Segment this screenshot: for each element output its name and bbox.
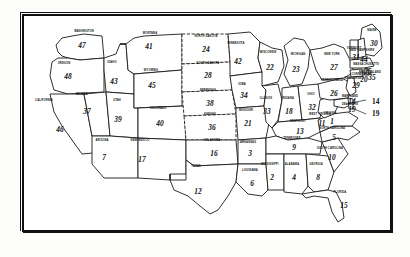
- state-name-indiana: INDIANA: [282, 96, 294, 100]
- state-name-california: CALIFORNIA: [35, 98, 53, 102]
- state-number-pennsylvania: 26: [329, 89, 338, 98]
- state-number-new-hampshire: 44: [359, 55, 368, 64]
- state-number-connecticut: 20: [359, 75, 368, 84]
- state-shape-wyoming[interactable]: [134, 70, 182, 108]
- state-name-pennsylvania: PENNSYLVANIA: [321, 78, 343, 82]
- state-name-south-carolina: SOUTH CAROLINA: [317, 146, 343, 150]
- state-number-texas: 12: [194, 187, 202, 196]
- state-name-texas: TEXAS: [191, 164, 201, 168]
- state-name-north-dakota: NORTH DAKOTA: [194, 34, 217, 38]
- state-name-oklahoma: OKLAHOMA: [204, 138, 221, 142]
- state-shape-florida[interactable]: [302, 190, 344, 222]
- state-name-new-york: NEW YORK: [324, 52, 340, 56]
- state-name-arizona: ARIZONA: [95, 138, 108, 142]
- state-name-nebraska: NEBRASKA: [200, 88, 216, 92]
- state-number-mississippi: 2: [269, 173, 274, 182]
- state-name-mississippi: MISSISSIPPI: [261, 162, 278, 166]
- state-name-washington: WASHINGTON: [74, 29, 94, 33]
- state-name-alabama: ALABAMA: [285, 162, 299, 166]
- state-name-nevada: NEVADA: [76, 92, 88, 96]
- us-states-svg: WASHINGTONOREGONCALIFORNIAIDAHONEVADAUTA…: [22, 14, 388, 228]
- state-name-maine: MAINE: [367, 28, 376, 32]
- state-number-michigan: 23: [291, 65, 300, 74]
- state-name-utah: UTAH: [113, 98, 121, 102]
- state-name-illinois: ILLINOIS: [260, 96, 272, 100]
- state-name-oregon: OREGON: [58, 61, 71, 65]
- state-number-california: 46: [55, 125, 64, 134]
- state-number-north-carolina: 5: [332, 133, 336, 142]
- state-name-kentucky: KENTUCKY: [290, 119, 306, 123]
- state-shape-mississippi[interactable]: [266, 154, 284, 190]
- state-number-illinois: 33: [262, 107, 271, 116]
- state-name-louisiana: LOUISIANA: [242, 168, 258, 172]
- state-name-south-dakota: SOUTH DAKOTA: [197, 61, 220, 65]
- state-number-minnesota: 42: [233, 57, 242, 66]
- state-number-colorado: 40: [155, 119, 164, 128]
- figure-us-numbered-state-map: WASHINGTONOREGONCALIFORNIAIDAHONEVADAUTA…: [0, 0, 410, 257]
- state-number-montana: 41: [144, 42, 152, 51]
- state-number-maine: 30: [369, 39, 378, 48]
- state-number-west-virginia: 11: [319, 119, 326, 128]
- state-name-missouri: MISSOURI: [239, 108, 253, 112]
- state-name-colorado: COLORADO: [150, 106, 167, 110]
- state-number-virginia: 1: [330, 117, 334, 126]
- state-number-oklahoma: 16: [210, 149, 218, 158]
- state-number-kentucky: 13: [296, 127, 304, 136]
- state-number-south-dakota: 28: [203, 71, 212, 80]
- state-number-washington: 47: [77, 41, 86, 50]
- state-number-utah: 39: [113, 115, 122, 124]
- state-number-new-york: 27: [329, 63, 338, 72]
- state-number-tennessee: 9: [292, 143, 296, 152]
- state-name-wyoming: WYOMING: [144, 68, 158, 72]
- state-name-minnesota: MINNESOTA: [227, 41, 244, 45]
- state-shape-iowa[interactable]: [230, 72, 266, 108]
- state-number-alabama: 4: [291, 173, 296, 182]
- callout-number-14: 14: [372, 97, 380, 106]
- state-number-georgia: 8: [316, 173, 320, 182]
- state-name-florida: FLORIDA: [334, 190, 347, 194]
- state-number-arizona: 7: [102, 153, 106, 162]
- map-canvas: WASHINGTONOREGONCALIFORNIAIDAHONEVADAUTA…: [22, 14, 388, 228]
- state-number-indiana: 18: [285, 107, 293, 116]
- state-number-arkansas: 3: [247, 149, 252, 158]
- state-name-kansas: KANSAS: [204, 112, 216, 116]
- state-number-south-carolina: 10: [328, 153, 336, 162]
- state-name-georgia: GEORGIA: [309, 162, 323, 166]
- state-name-vermont: VERMONT: [347, 46, 362, 50]
- state-number-nebraska: 38: [205, 99, 214, 108]
- state-name-michigan: MICHIGAN: [291, 52, 306, 56]
- state-name-wisconsin: WISCONSIN: [260, 50, 277, 54]
- state-number-wisconsin: 22: [265, 63, 274, 72]
- state-number-florida: 15: [340, 201, 348, 210]
- callout-number-19: 19: [372, 109, 380, 118]
- state-number-wyoming: 45: [147, 81, 156, 90]
- state-number-rhode-island: 35: [367, 73, 376, 82]
- state-shape-alabama[interactable]: [284, 154, 308, 194]
- state-shape-utah[interactable]: [106, 92, 138, 138]
- state-shape-minnesota[interactable]: [228, 32, 262, 76]
- state-name-ohio: OHIO: [307, 92, 314, 96]
- state-name-montana: MONTANA: [143, 31, 157, 35]
- state-name-tennessee: TENNESSEE: [283, 136, 300, 140]
- state-shape-michigan[interactable]: [284, 38, 310, 86]
- state-number-north-dakota: 24: [201, 45, 210, 54]
- state-number-ohio: 32: [307, 103, 316, 112]
- state-number-new-jersey: 29: [351, 81, 360, 90]
- state-name-arkansas: ARKANSAS: [240, 140, 256, 144]
- callout-number-labels: 1419: [372, 97, 380, 118]
- state-number-idaho: 43: [109, 77, 118, 86]
- state-name-idaho: IDAHO: [107, 60, 116, 64]
- state-number-louisiana: 6: [250, 179, 254, 188]
- state-number-missouri: 21: [243, 119, 251, 128]
- state-name-new-mexico: NEW MEXICO: [131, 138, 150, 142]
- state-number-delaware: 19: [348, 105, 356, 114]
- state-number-vermont: 31: [351, 53, 359, 62]
- state-shape-arizona[interactable]: [92, 136, 138, 178]
- state-number-iowa: 34: [239, 91, 248, 100]
- state-number-new-mexico: 17: [138, 155, 146, 164]
- state-number-nevada: 37: [82, 107, 91, 116]
- state-number-oregon: 48: [63, 72, 72, 81]
- state-number-kansas: 36: [207, 123, 216, 132]
- state-name-virginia: VIRGINIA: [324, 111, 337, 115]
- state-name-iowa: IOWA: [238, 82, 246, 86]
